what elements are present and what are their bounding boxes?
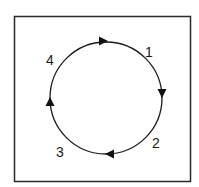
- label-4: 4: [46, 52, 54, 68]
- label-2: 2: [152, 135, 160, 151]
- arrow-left-icon: [46, 97, 55, 106]
- cycle-diagram: 1 2 3 4: [0, 0, 199, 187]
- label-1: 1: [145, 44, 153, 60]
- arrow-right-icon: [158, 89, 167, 98]
- arrow-top-icon: [99, 37, 108, 46]
- arrow-bottom-icon: [105, 150, 114, 159]
- label-3: 3: [56, 144, 64, 160]
